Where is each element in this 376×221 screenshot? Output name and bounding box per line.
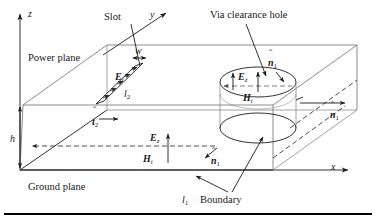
y-axis-label: y: [149, 9, 155, 20]
power-plane-label: Power plane: [28, 52, 81, 63]
slot-label: Slot: [104, 11, 121, 22]
svg-text:l2: l2: [124, 88, 131, 101]
cavity-interior-fields: Ez Ht n1 ˆ: [32, 132, 221, 168]
via-clearance-hole-label: Via clearance hole: [210, 9, 288, 20]
via-hole-callout-leader: [246, 24, 266, 76]
svg-text:l1: l1: [182, 194, 189, 207]
t2-hat-accent: ˆ: [93, 106, 97, 116]
cavity-Ht-subscript: t: [151, 158, 154, 166]
hole-Ez-subscript: z: [244, 76, 248, 84]
t2-subscript: 2: [95, 121, 99, 129]
svg-text:Ez: Ez: [237, 71, 248, 84]
l2-subscript: 2: [127, 93, 131, 101]
cavity-Ez-subscript: z: [156, 137, 160, 145]
ground-plane-bottom-surface: [20, 110, 357, 170]
slot-shape: [96, 63, 143, 104]
svg-text:Ez: Ez: [149, 132, 160, 145]
svg-text:Ht: Ht: [142, 153, 154, 166]
cavity-n1-subscript: 1: [217, 160, 221, 168]
cavity-side-edges: [20, 45, 357, 170]
svg-text:Ht: Ht: [242, 92, 254, 105]
figure-container: h w Et: [0, 0, 376, 221]
hole-n1-subscript: 1: [274, 62, 278, 70]
x-axis-label: x: [330, 161, 336, 172]
slot-length-label: l2: [124, 88, 131, 101]
edge-n1-subscript: 1: [336, 114, 340, 122]
via-hole-bottom-ellipse: [220, 113, 296, 143]
slot-width-dimension: w: [133, 45, 146, 58]
hole-Ht-subscript: t: [251, 97, 254, 105]
ground-plane-label: Ground plane: [28, 181, 86, 192]
boundary-callout-leaders: [196, 137, 263, 192]
z-axis-label: z: [27, 8, 32, 19]
diagram-canvas: h w Et: [0, 0, 376, 221]
height-label: h: [10, 133, 15, 144]
boundary-l1-subscript: 1: [185, 199, 189, 207]
height-dimension-h: h: [10, 107, 20, 168]
boundary-label: Boundary: [200, 194, 242, 205]
